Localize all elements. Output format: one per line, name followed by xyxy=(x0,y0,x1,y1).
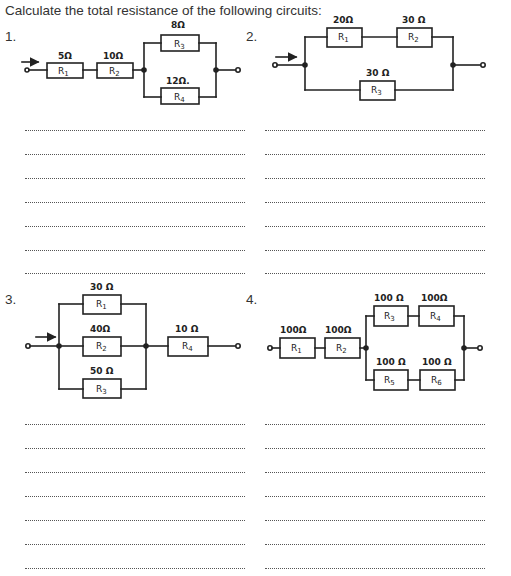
svg-text:R3: R3 xyxy=(371,85,382,97)
c4-r3-value: 100 Ω xyxy=(374,293,404,303)
c3-r4-value: 10 Ω xyxy=(175,324,199,334)
answer-line[interactable] xyxy=(265,424,485,425)
c3-r2-value: 40Ω xyxy=(90,324,111,334)
answer-line[interactable] xyxy=(25,250,245,251)
c2-r1-value: 20Ω xyxy=(333,15,354,25)
answer-line[interactable] xyxy=(25,130,245,131)
circuit-1 xyxy=(22,35,240,104)
answer-line[interactable] xyxy=(25,178,245,179)
answer-line[interactable] xyxy=(265,496,485,497)
svg-text:R1: R1 xyxy=(58,66,69,78)
answer-line[interactable] xyxy=(265,178,485,179)
answer-line[interactable] xyxy=(25,448,245,449)
answer-line[interactable] xyxy=(265,250,485,251)
svg-text:R4: R4 xyxy=(430,311,441,323)
svg-text:R3: R3 xyxy=(384,311,395,323)
c2-r2-value: 30 Ω xyxy=(402,15,426,25)
answer-line[interactable] xyxy=(265,448,485,449)
svg-text:R1: R1 xyxy=(291,343,302,355)
c1-r4-value: 12Ω. xyxy=(166,76,190,86)
answer-line[interactable] xyxy=(25,154,245,155)
answer-line[interactable] xyxy=(265,202,485,203)
c4-r4-value: 100Ω xyxy=(421,293,448,303)
answer-line[interactable] xyxy=(265,544,485,545)
answer-line[interactable] xyxy=(25,226,245,227)
svg-text:R4: R4 xyxy=(174,92,185,104)
answer-line[interactable] xyxy=(25,544,245,545)
c3-r1-value: 30 Ω xyxy=(90,282,114,292)
c2-r3-value: 30 Ω xyxy=(366,68,390,78)
svg-text:R6: R6 xyxy=(431,375,442,387)
answer-line[interactable] xyxy=(25,273,245,274)
c4-r2-value: 100Ω xyxy=(325,325,352,335)
answer-line[interactable] xyxy=(25,568,245,569)
answer-line[interactable] xyxy=(265,472,485,473)
circuit-diagrams: 5Ω 10Ω 8Ω 12Ω. R1 R2 R3 R4 20Ω 30 Ω 30 Ω… xyxy=(0,0,511,576)
svg-text:R2: R2 xyxy=(109,66,120,78)
c1-r1-value: 5Ω xyxy=(58,51,72,61)
svg-text:R3: R3 xyxy=(96,384,107,396)
answer-line[interactable] xyxy=(265,130,485,131)
answer-line[interactable] xyxy=(265,226,485,227)
c4-r1-value: 100Ω xyxy=(280,325,307,335)
c3-r3-value: 50 Ω xyxy=(90,366,114,376)
answer-line[interactable] xyxy=(25,496,245,497)
answer-line[interactable] xyxy=(25,472,245,473)
svg-text:R2: R2 xyxy=(408,32,419,44)
answer-line[interactable] xyxy=(265,520,485,521)
svg-text:R2: R2 xyxy=(336,343,347,355)
svg-text:R5: R5 xyxy=(384,375,395,387)
svg-text:R4: R4 xyxy=(182,341,193,353)
svg-text:R1: R1 xyxy=(96,299,107,311)
answer-line[interactable] xyxy=(25,424,245,425)
circuit-3 xyxy=(26,295,240,398)
c1-r3-value: 8Ω xyxy=(171,20,185,30)
answer-line[interactable] xyxy=(265,273,485,274)
svg-text:R2: R2 xyxy=(96,341,107,353)
answer-line[interactable] xyxy=(25,520,245,521)
c1-r2-value: 10Ω xyxy=(103,51,124,61)
answer-line[interactable] xyxy=(265,568,485,569)
svg-text:R3: R3 xyxy=(174,39,185,51)
c4-r5-value: 100 Ω xyxy=(376,357,406,367)
answer-line[interactable] xyxy=(265,154,485,155)
svg-text:R1: R1 xyxy=(338,32,349,44)
c4-r6-value: 100 Ω xyxy=(422,357,452,367)
answer-line[interactable] xyxy=(25,202,245,203)
